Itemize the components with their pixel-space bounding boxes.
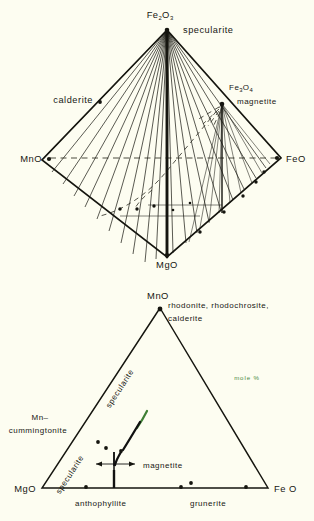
label-mgo: MgO [156,259,178,270]
label-magnetite-ternary: magnetite [143,461,183,470]
label-specularite-upper-edge: specularite [104,368,136,410]
vertex-marker-mgo [165,253,169,257]
phase-boundary-black-mid [115,452,121,465]
label-fe3o4: Fe3O4 [229,83,254,93]
label-apex-minerals-line1: rhodonite, rhodochrosite, [168,301,269,310]
label-anthophyllite: anthophyllite [75,499,126,508]
figure-root: Fe2O3 specularite calderite MnO FeO MgO … [0,0,314,521]
label-feo-ternary: Fe O [274,483,297,494]
label-fe2o3: Fe2O3 [147,9,174,21]
composition-tetrahedron: Fe2O3 specularite calderite MnO FeO MgO … [0,0,314,270]
point-marker-fe3o4 [220,102,225,107]
label-mole-percent: mole % [234,374,260,381]
label-grunerite: grunerite [190,499,226,508]
fan-lines-from-fe2o3 [42,30,266,262]
vertex-marker-fe2o3 [165,28,170,33]
label-mn-cummingtonite-line1: Mn– [31,413,48,422]
point-marker-calderite [98,100,102,104]
label-mn-cummingtonite-line2: cummingtonite [9,426,68,435]
label-magnetite-top: magnetite [237,97,277,106]
label-apex-minerals-line2: calderite [168,314,203,323]
vertex-marker-feo [275,156,279,160]
vertex-marker-mno-ternary [158,307,163,312]
ternary-diagram: MnO rhodonite, rhodochrosite, calderite … [0,270,314,521]
label-specularite-lower-edge: specularite [54,454,86,496]
label-mno: MnO [20,153,42,164]
label-specularite-top: specularite [183,25,233,35]
label-feo: FeO [286,153,306,164]
interior-dashed-curve-lower [134,190,152,210]
label-mgo-ternary: MgO [14,483,36,494]
label-mno-ternary: MnO [147,290,169,301]
fan-lines-from-fe3o4 [189,104,270,242]
vertex-marker-mno [47,157,51,161]
label-calderite: calderite [53,95,93,105]
phase-boundary-black-upper [123,422,140,450]
